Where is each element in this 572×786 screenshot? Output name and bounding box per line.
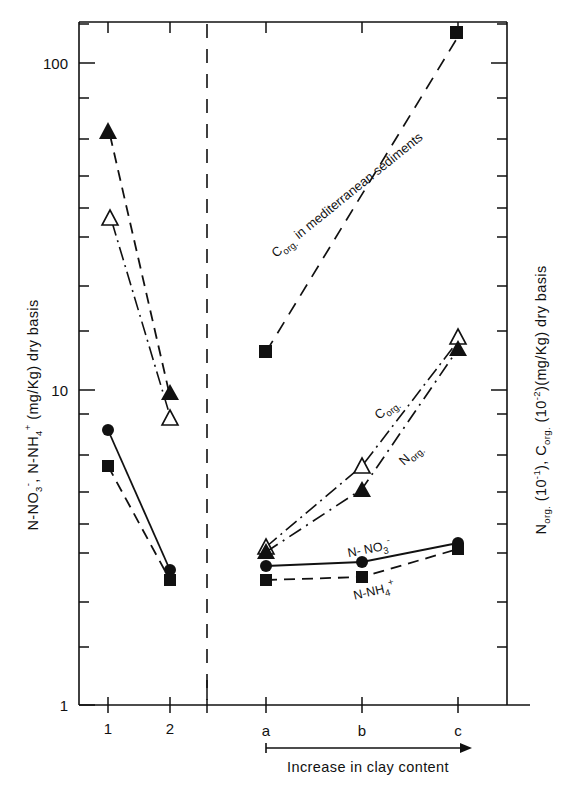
y-left-prefix: N-NO	[25, 492, 41, 531]
y-right-sup1: -1	[531, 470, 542, 479]
y-right-sub-org2: org.	[541, 427, 552, 445]
marker-filled-square	[260, 574, 272, 586]
y-right-mid1: (10	[533, 479, 549, 506]
x-tick-label-1: 1	[104, 720, 112, 737]
marker-filled-square	[450, 26, 463, 39]
chart-figure: 100 10 1 N-NO3-, N-NH4+ (mg/Kg) dry basi…	[0, 0, 572, 786]
marker-filled-circle	[260, 560, 272, 572]
marker-filled-square	[259, 345, 272, 358]
y-left-mid: , N-NH	[25, 436, 41, 483]
marker-filled-square	[452, 543, 464, 555]
x-axis-title: Increase in clay content	[287, 759, 449, 775]
y-axis-title-left: N-NO3-, N-NH4+ (mg/Kg) dry basis	[22, 299, 44, 530]
y-right-prefix: N	[533, 524, 549, 535]
y-right-sup2: -2	[531, 391, 542, 400]
y-right-mid2: ), C	[533, 445, 549, 470]
y-tick-label-100: 100	[43, 55, 68, 72]
marker-filled-square	[164, 574, 176, 586]
marker-filled-square	[102, 460, 114, 472]
marker-filled-square	[356, 571, 368, 583]
y-tick-label-1: 1	[60, 697, 68, 714]
y-left-sub-3: 3	[33, 486, 44, 492]
y-left-suffix: (mg/Kg) dry basis	[25, 299, 41, 424]
chart-background	[0, 0, 572, 786]
y-right-mid3: (10	[533, 400, 549, 427]
y-right-suffix: )(mg/Kg) dry basis	[533, 265, 549, 391]
y-tick-label-10: 10	[51, 382, 68, 399]
marker-filled-circle	[102, 424, 114, 436]
y-right-sub-org1: org.	[541, 506, 552, 524]
log-line-chart: 100 10 1 N-NO3-, N-NH4+ (mg/Kg) dry basi…	[0, 0, 572, 786]
x-tick-label-a: a	[262, 722, 271, 739]
x-tick-label-b: b	[358, 722, 366, 739]
x-tick-label-c: c	[454, 722, 462, 739]
x-tick-label-2: 2	[166, 720, 174, 737]
y-left-sub-4: 4	[33, 430, 44, 436]
svg-text:N-NO3-, N-NH4+ (mg/Kg) dry bas: N-NO3-, N-NH4+ (mg/Kg) dry basis	[22, 299, 44, 530]
